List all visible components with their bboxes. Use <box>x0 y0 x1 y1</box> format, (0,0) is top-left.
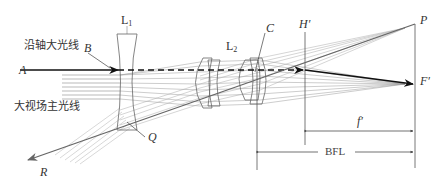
focal-point-label: F′ <box>420 75 430 87</box>
axial-ray-label: 沿轴大光线 <box>24 40 79 51</box>
point-a-label: A <box>19 64 26 76</box>
bfl-label: BFL <box>322 146 348 157</box>
point-c-label: C <box>266 22 274 34</box>
point-q-label: Q <box>148 131 157 143</box>
leader-b <box>88 53 110 68</box>
lens-l1-label: L1 <box>121 14 132 28</box>
incoming-ray-bundle <box>62 75 120 99</box>
optical-diagram <box>0 0 438 185</box>
focal-length-label: f′ <box>357 115 363 127</box>
axial-ray-outgoing <box>305 70 413 84</box>
lens-l2-label: L2 <box>226 40 237 54</box>
point-p-label: P <box>420 14 427 26</box>
chief-ray-label: 大视场主光线 <box>14 101 80 112</box>
principal-plane-label: H′ <box>299 18 310 30</box>
lens-l1 <box>117 34 137 130</box>
point-b-label: B <box>84 42 91 54</box>
point-r-label: R <box>40 166 47 178</box>
